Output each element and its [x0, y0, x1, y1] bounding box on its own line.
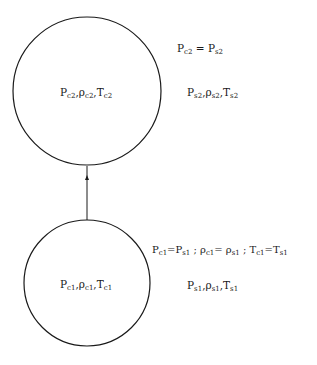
- diagram-canvas: [0, 0, 317, 365]
- upper-surroundings-label: Ps2,ρs2,Ts2: [187, 87, 238, 100]
- arrow-head-icon: [85, 175, 89, 180]
- lower-state-equalities: Pc1=Ps1 ; ρc1= ρs1 ; Tc1=Ts1: [152, 245, 288, 257]
- upper-pressure-equality: Pc2 = Ps2: [177, 43, 223, 56]
- upper-circle-label: Pc2,ρc2,Tc2: [60, 87, 112, 100]
- lower-surroundings-label: Ps1,ρs1,Ts1: [187, 280, 238, 293]
- lower-circle-label: Pc1,ρc1,Tc1: [60, 279, 112, 292]
